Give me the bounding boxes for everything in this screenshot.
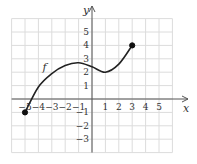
y-tick-label: −3: [76, 134, 90, 144]
y-tick-label: 2: [83, 67, 89, 77]
x-tick-label: 5: [156, 102, 162, 112]
y-tick-label: 3: [83, 54, 89, 64]
y-tick-label: 4: [83, 40, 89, 50]
x-tick-label: 3: [129, 102, 135, 112]
x-tick-label: 1: [103, 102, 109, 112]
endpoint-dot: [130, 43, 135, 48]
y-tick-label: 5: [83, 27, 89, 37]
x-tick-label: −2: [59, 102, 72, 112]
y-tick-label: −1: [76, 107, 89, 117]
x-tick-label: 2: [116, 102, 122, 112]
x-axis-label: x: [183, 102, 190, 115]
y-tick-label: 1: [83, 81, 89, 91]
x-tick-label: 4: [143, 102, 149, 112]
function-graph: −5−4−3−2−112345−3−2−112345 f x y: [0, 0, 197, 164]
x-tick-label: −4: [32, 102, 46, 112]
y-axis-label: y: [82, 4, 90, 17]
endpoint-dot: [22, 110, 27, 115]
x-tick-label: −3: [45, 102, 59, 112]
y-tick-label: −2: [76, 121, 89, 131]
